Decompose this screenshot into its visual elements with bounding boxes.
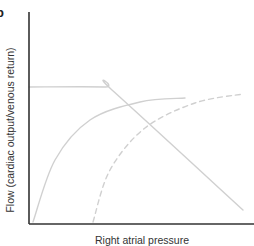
series-layer — [29, 80, 243, 222]
series-line-3 — [93, 94, 243, 222]
series-line-1 — [29, 80, 243, 210]
y-axis-label: Flow (cardiac output/venous return) — [4, 47, 16, 212]
x-axis-label: Right atrial pressure — [95, 234, 189, 246]
